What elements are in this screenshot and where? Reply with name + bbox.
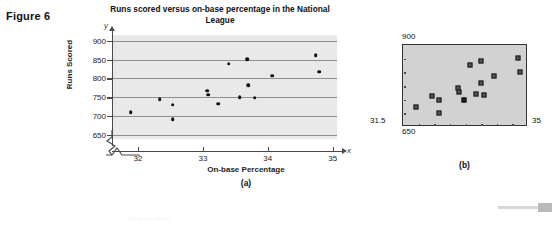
- data-point: [437, 110, 442, 115]
- footer-faint-text: Scatter Plot: [128, 216, 171, 222]
- y-scale-tick: [404, 59, 406, 61]
- x-axis-title: On-base Percentage: [166, 165, 326, 174]
- y-tick-label: 700: [80, 112, 106, 121]
- panel-a-caption: (a): [166, 178, 326, 188]
- gridline: [113, 41, 337, 42]
- panel-b-left-label: 31.5: [370, 116, 386, 125]
- y-scale-tick: [404, 113, 406, 115]
- x-tick: [268, 147, 269, 152]
- y-axis-arrow-icon: [109, 26, 115, 31]
- y-tick: [107, 135, 112, 136]
- data-point: [158, 97, 162, 101]
- data-point: [216, 102, 220, 106]
- panel-b-bottom-label: 650: [402, 127, 415, 136]
- x-scale-tick: [466, 124, 468, 126]
- y-axis-line: [112, 29, 113, 146]
- x-axis-line: [112, 151, 342, 152]
- data-point: [468, 63, 473, 68]
- data-point: [518, 69, 523, 74]
- plot-area: [112, 35, 337, 139]
- panel-b-right-label: 35: [532, 116, 541, 125]
- y-scale-tick: [404, 86, 406, 88]
- data-point: [478, 59, 483, 64]
- data-point: [207, 93, 211, 97]
- gridline: [113, 78, 337, 79]
- x-scale-tick: [419, 124, 421, 126]
- y-tick-label: 900: [80, 36, 106, 45]
- x-tick: [203, 147, 204, 152]
- chart-title: Runs scored versus on-base percentage in…: [100, 4, 340, 26]
- x-tick-label: 33: [191, 154, 215, 163]
- y-tick-label: 850: [80, 55, 106, 64]
- y-tick: [107, 60, 112, 61]
- data-point: [318, 70, 322, 74]
- data-point: [171, 103, 175, 107]
- y-tick-label: 800: [80, 74, 106, 83]
- y-tick-label: 750: [80, 93, 106, 102]
- x-tick: [138, 147, 139, 152]
- calculator-plot-area: [402, 44, 527, 126]
- data-point: [171, 117, 175, 121]
- data-point: [253, 96, 257, 100]
- data-point: [270, 74, 274, 78]
- data-point: [205, 89, 209, 93]
- data-point: [414, 104, 419, 109]
- data-point: [462, 97, 467, 102]
- gridline: [113, 135, 337, 136]
- y-tick: [107, 78, 112, 79]
- data-point: [482, 92, 487, 97]
- scatter-plot-panel-a: Runs scored versus on-base percentage in…: [56, 4, 356, 194]
- x-scale-tick: [434, 124, 436, 126]
- data-point: [430, 93, 435, 98]
- data-point: [457, 89, 462, 94]
- x-axis-variable-label: x: [347, 146, 351, 155]
- figure-label: Figure 6: [6, 10, 50, 22]
- x-tick-label: 35: [321, 154, 345, 163]
- gridline: [113, 60, 337, 61]
- data-point: [246, 57, 250, 61]
- y-scale-tick: [404, 100, 406, 102]
- y-axis-title: Runs Scored: [65, 30, 74, 100]
- x-scale-tick: [512, 124, 514, 126]
- data-point: [314, 54, 318, 58]
- x-scale-tick: [481, 124, 483, 126]
- data-point: [437, 98, 442, 103]
- x-tick-label: 34: [256, 154, 280, 163]
- y-tick: [107, 97, 112, 98]
- data-point: [246, 83, 250, 87]
- calculator-screen-panel-b: 900 650 31.5 35 (b): [382, 32, 552, 192]
- gridline: [113, 97, 337, 98]
- x-scale-tick: [497, 124, 499, 126]
- data-point: [516, 55, 521, 60]
- data-point: [227, 62, 231, 66]
- data-point: [478, 81, 483, 86]
- x-tick-label: 32: [126, 154, 150, 163]
- data-point: [238, 96, 242, 100]
- panel-b-caption: (b): [402, 160, 527, 170]
- y-tick-labels: 650700750800850900: [72, 4, 106, 194]
- y-tick: [107, 41, 112, 42]
- y-tick-label: 650: [80, 131, 106, 140]
- x-tick: [333, 147, 334, 152]
- footer-swatch: [538, 203, 552, 212]
- data-point: [129, 110, 133, 114]
- data-point: [492, 73, 497, 78]
- y-scale-tick: [404, 72, 406, 74]
- data-point: [474, 92, 479, 97]
- y-tick: [107, 116, 112, 117]
- gridline: [113, 116, 337, 117]
- panel-b-top-label: 900: [402, 32, 415, 41]
- x-scale-tick: [450, 124, 452, 126]
